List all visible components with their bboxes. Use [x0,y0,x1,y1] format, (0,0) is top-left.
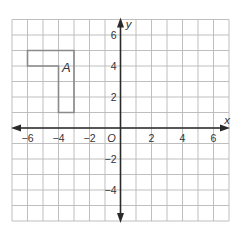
y-tick-label: 2 [111,91,117,103]
y-axis-up-arrow-icon [117,18,124,28]
coordinate-grid: A −6−4−2246642−2−4Oxy [0,0,246,236]
x-tick-label: −6 [22,132,34,144]
y-tick-label: −2 [105,153,117,165]
x-tick-label: −2 [84,132,96,144]
y-tick-label: 6 [111,29,117,41]
y-tick-label: 4 [111,60,117,72]
x-tick-label: −4 [53,132,65,144]
x-tick-label: 4 [180,132,186,144]
origin-label: O [107,132,116,144]
tick-labels: −6−4−2246642−2−4Oxy [22,18,232,197]
y-tick-label: −4 [105,184,117,196]
shape-label: A [61,60,71,75]
x-axis-left-arrow-icon [11,125,21,132]
axes [11,18,230,224]
y-axis-down-arrow-icon [117,213,124,223]
x-tick-label: 2 [149,132,155,144]
x-tick-label: 6 [211,132,217,144]
coordinate-plane-figure: A −6−4−2246642−2−4Oxy [0,0,246,236]
x-axis-label: x [223,114,231,126]
